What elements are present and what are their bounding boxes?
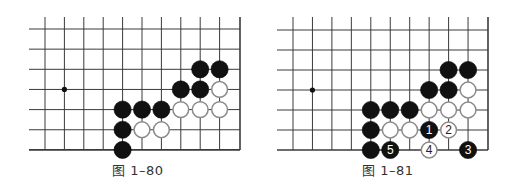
black-stone: [440, 61, 457, 78]
hoshi-star-point: [310, 87, 315, 92]
black-stone: [401, 101, 418, 118]
black-stone: [362, 141, 379, 158]
black-stone-move-3: 3: [459, 141, 476, 158]
black-stone: [459, 61, 476, 78]
white-stone: [382, 122, 398, 138]
move-number: 3: [465, 143, 472, 157]
white-stone: [402, 122, 418, 138]
figure-caption-1-81: 图 1–81: [362, 160, 413, 179]
move-number: 4: [426, 143, 433, 157]
move-number: 5: [387, 143, 394, 157]
white-stone: [421, 102, 437, 118]
black-stone: [362, 121, 379, 138]
white-stone-move-4: 4: [421, 142, 437, 158]
move-number: 1: [426, 123, 433, 137]
black-stone-move-1: 1: [421, 121, 438, 138]
white-stone: [441, 102, 457, 118]
white-stone: [460, 82, 476, 98]
black-stone: [362, 101, 379, 118]
go-board-grid: 12543: [0, 0, 516, 196]
white-stone: [460, 102, 476, 118]
black-stone: [382, 101, 399, 118]
white-stone-move-2: 2: [441, 122, 457, 138]
black-stone: [421, 81, 438, 98]
black-stone-move-5: 5: [382, 141, 399, 158]
black-stone: [440, 81, 457, 98]
move-number: 2: [445, 123, 452, 137]
